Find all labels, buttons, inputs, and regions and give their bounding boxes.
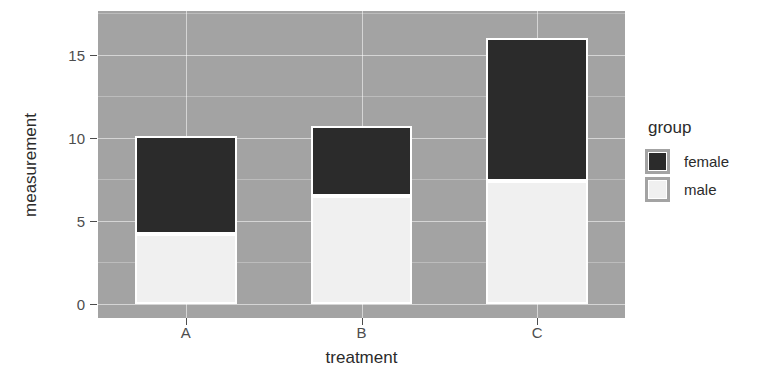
bar-segment <box>135 136 237 234</box>
bar-segment <box>486 38 588 181</box>
x-tick-label: A <box>156 325 216 340</box>
y-tick-label: 0 <box>40 297 85 312</box>
bar-segment <box>135 234 237 304</box>
y-tick-label: 10 <box>40 131 85 146</box>
y-tick-label: 15 <box>40 48 85 63</box>
legend-swatch <box>648 152 667 171</box>
chart-root: measurement 0 5 10 15 ABC treatment grou… <box>0 0 764 377</box>
y-tick-label: 5 <box>40 214 85 229</box>
y-tick-mark <box>90 304 97 305</box>
legend-swatch <box>648 180 667 199</box>
legend-key <box>645 149 670 174</box>
y-tick-mark <box>90 55 97 56</box>
bar-segment <box>311 196 413 304</box>
legend-item: male <box>645 175 760 203</box>
legend-label: female <box>684 154 729 169</box>
y-axis-title: measurement <box>20 0 42 330</box>
bar-segment <box>311 126 413 196</box>
bar-segment <box>486 181 588 304</box>
plot-panel <box>98 11 625 318</box>
y-axis-tick-labels: 0 5 10 15 <box>40 0 85 377</box>
y-tick-mark <box>90 221 97 222</box>
x-tick-label: C <box>507 325 567 340</box>
legend-title: group <box>645 118 760 138</box>
x-axis-title: treatment <box>98 348 625 368</box>
x-tick-label: B <box>332 325 392 340</box>
legend-key <box>645 177 670 202</box>
legend-entries: femalemale <box>645 147 760 203</box>
legend-label: male <box>684 182 717 197</box>
y-tick-mark <box>90 138 97 139</box>
legend: group femalemale <box>645 118 760 203</box>
legend-item: female <box>645 147 760 175</box>
